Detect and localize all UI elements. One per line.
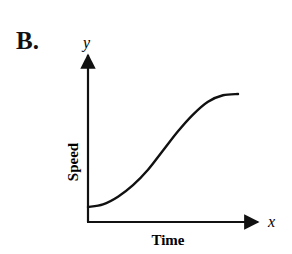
y-axis-title: Speed (65, 142, 81, 181)
y-axis-variable: y (81, 34, 91, 52)
speed-time-chart: y x Time Speed (0, 0, 292, 254)
x-axis-variable: x (267, 213, 275, 230)
speed-curve (88, 94, 238, 207)
x-axis-title: Time (151, 232, 184, 248)
